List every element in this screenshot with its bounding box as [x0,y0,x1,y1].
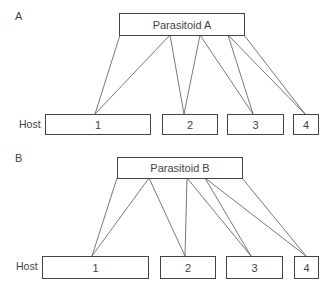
host-label-b: Host [16,260,38,272]
host-label-a: Host [19,118,41,130]
host-b-3-label: 3 [251,262,257,274]
panel-label-b: B [15,152,22,164]
panel-label-a: A [15,10,22,22]
host-b-4-label: 4 [303,262,309,274]
host-b-3-box: 3 [226,256,283,279]
host-b-2-box: 2 [160,256,216,279]
host-b-1-label: 1 [92,262,98,274]
connection-lines [0,0,332,291]
host-a-3-box: 3 [227,114,284,135]
host-a-4-box: 4 [293,114,319,135]
host-a-1-label: 1 [95,119,101,131]
host-a-3-label: 3 [252,119,258,131]
host-a-1-box: 1 [45,114,151,135]
host-b-2-label: 2 [185,262,191,274]
host-b-1-box: 1 [42,256,149,279]
host-a-2-box: 2 [162,114,218,135]
parasitoid-a-box: Parasitoid A [119,13,245,36]
parasitoid-b-label: Parasitoid B [150,162,209,174]
parasitoid-a-label: Parasitoid A [153,19,212,31]
host-b-4-box: 4 [294,256,319,279]
parasitoid-b-box: Parasitoid B [117,157,243,179]
host-a-2-label: 2 [187,119,193,131]
host-a-4-label: 4 [303,119,309,131]
